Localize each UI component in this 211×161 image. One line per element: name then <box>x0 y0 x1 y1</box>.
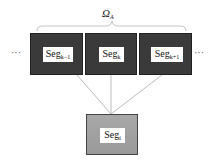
segment-label-k-plus-1: Segk+1 <box>151 47 183 62</box>
segment-box-i: Segi <box>86 114 138 155</box>
group-label-subscript: A <box>110 14 114 20</box>
segment-label-k: Segk <box>99 47 124 62</box>
segment-label-subscript: k+1 <box>170 54 179 60</box>
group-label-symbol: Ω <box>102 7 110 19</box>
connector-line-right <box>111 75 162 114</box>
group-label: ΩA <box>102 8 114 23</box>
segment-label-subscript: i <box>119 135 121 141</box>
segment-label-k-minus-1: Segk−1 <box>43 47 73 62</box>
segment-label-base: Seg <box>155 48 170 59</box>
segment-label-i: Segi <box>100 128 125 143</box>
segment-label-base: Seg <box>46 48 61 59</box>
connector-line-left <box>77 75 111 114</box>
segment-label-subscript: k−1 <box>61 54 70 60</box>
segment-label-base: Seg <box>104 129 119 140</box>
segment-label-base: Seg <box>103 48 118 59</box>
segment-box-k: Segk <box>85 33 137 75</box>
segment-box-k-minus-1: Segk−1 <box>30 33 83 75</box>
segment-label-subscript: k <box>118 54 121 60</box>
segment-box-k-plus-1: Segk+1 <box>139 33 192 75</box>
ellipsis-right: ··· <box>194 48 204 58</box>
ellipsis-left: ··· <box>11 48 21 58</box>
